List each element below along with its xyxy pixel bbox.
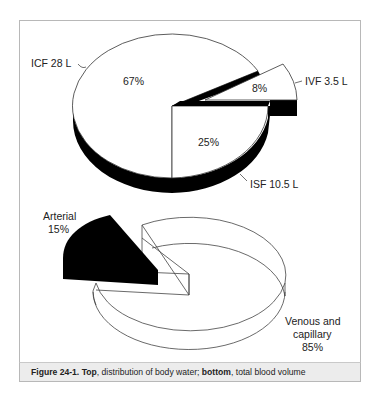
body-water-pie: ICF 28 L 67% IVF 3.5 L 8% 25% ISF 10.5 L bbox=[31, 34, 348, 193]
figure-caption: Figure 24-1. Top, distribution of body w… bbox=[19, 362, 361, 382]
slice-isf-top-edge bbox=[172, 101, 270, 106]
label-isf: ISF 10.5 L bbox=[250, 178, 299, 190]
leader-isf bbox=[240, 174, 247, 181]
leader-ivf bbox=[295, 81, 302, 83]
caption-figure-number: Figure 24-1. bbox=[31, 367, 79, 377]
caption-top-bold: Top bbox=[82, 367, 97, 377]
label-ivf: IVF 3.5 L bbox=[305, 75, 348, 87]
percent-ivf: 8% bbox=[252, 82, 267, 94]
leader-icf bbox=[78, 64, 86, 68]
percent-icf: 67% bbox=[123, 75, 144, 87]
label-venous-line1: Venous and bbox=[285, 315, 341, 327]
label-arterial: Arterial bbox=[43, 210, 76, 222]
label-icf: ICF 28 L bbox=[31, 57, 71, 69]
cylinder-left-side bbox=[93, 283, 96, 305]
percent-isf: 25% bbox=[198, 136, 219, 148]
slice-isf bbox=[172, 106, 268, 178]
slice-arterial bbox=[63, 215, 158, 285]
slice-ivf-side bbox=[270, 100, 297, 116]
cylinder-bottom-ellipse bbox=[93, 291, 285, 350]
percent-venous: 85% bbox=[302, 341, 323, 353]
label-venous-line2: capillary bbox=[293, 328, 332, 340]
caption-bottom-text: , total blood volume bbox=[231, 367, 306, 377]
cylinder-top-front-arc bbox=[96, 283, 285, 331]
caption-top-text: , distribution of body water; bbox=[97, 367, 202, 377]
figure-charts: ICF 28 L 67% IVF 3.5 L 8% 25% ISF 10.5 L… bbox=[0, 0, 379, 401]
percent-arterial: 15% bbox=[48, 223, 69, 235]
caption-bottom-bold: bottom bbox=[202, 367, 231, 377]
